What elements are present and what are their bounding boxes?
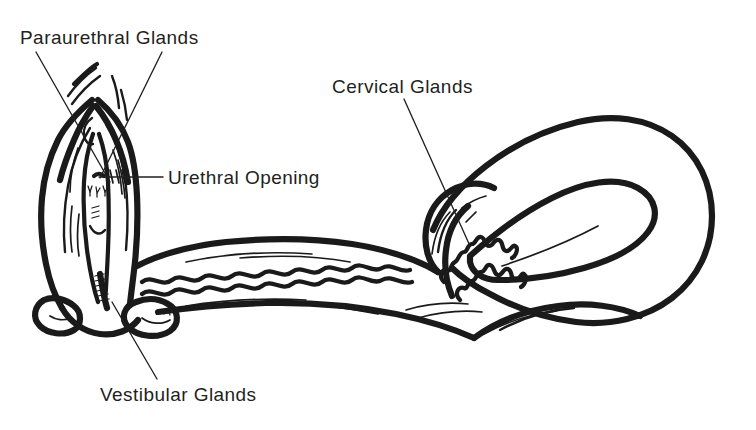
diagram-canvas: Paraurethral Glands Urethral Opening Cer… (0, 0, 756, 430)
diagram-background (0, 0, 756, 430)
label-cervical-glands: Cervical Glands (332, 76, 473, 97)
anatomy-diagram: Paraurethral Glands Urethral Opening Cer… (0, 0, 756, 430)
label-paraurethral-glands: Paraurethral Glands (20, 27, 199, 48)
label-vestibular-glands: Vestibular Glands (100, 384, 257, 405)
label-urethral-opening: Urethral Opening (168, 167, 320, 188)
